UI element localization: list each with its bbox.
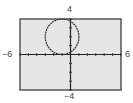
graph-screen bbox=[0, 0, 133, 103]
